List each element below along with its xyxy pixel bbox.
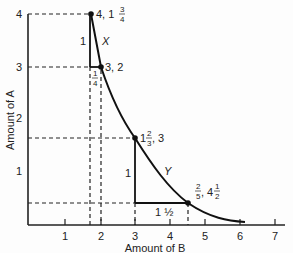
svg-text:4, 1: 4, 1 <box>96 8 114 20</box>
y-tick-2: 2 <box>16 112 22 124</box>
x-tick-3: 3 <box>132 230 138 242</box>
indifference-curve <box>91 14 245 222</box>
y-tick-3: 3 <box>16 61 22 73</box>
point-3-label: 1 2 3 , 3 <box>140 129 164 148</box>
point-1-label: 4, 1 3 4 <box>96 5 125 24</box>
chart: 1 2 3 4 5 6 7 Amount of B 1 2 3 4 Amount… <box>0 0 293 253</box>
delta-b-y-label: 1 ½ <box>155 206 173 218</box>
svg-text:4: 4 <box>93 79 98 88</box>
point-4-label: 2 5 , 4 1 2 <box>195 182 220 201</box>
point-3 <box>132 135 138 141</box>
x-tick-7: 7 <box>272 230 278 242</box>
svg-text:3: 3 <box>120 5 125 14</box>
segment-y-label: Y <box>164 165 172 177</box>
point-1 <box>88 11 94 17</box>
x-tick-labels: 1 2 3 4 5 6 7 <box>62 230 278 242</box>
point-2-label: 3, 2 <box>105 61 123 73</box>
y-tick-4: 4 <box>16 8 22 20</box>
svg-text:1: 1 <box>215 182 220 191</box>
delta-a-y-label: 1 <box>125 167 131 179</box>
svg-text:, 3: , 3 <box>152 132 164 144</box>
x-tick-4: 4 <box>167 230 173 242</box>
x-axis-label: Amount of B <box>125 242 186 253</box>
svg-text:1: 1 <box>140 132 146 144</box>
svg-text:2: 2 <box>215 192 220 201</box>
segment-x-label: X <box>101 35 110 47</box>
svg-text:1: 1 <box>93 69 98 78</box>
y-axis-label: Amount of A <box>4 89 16 150</box>
svg-text:, 4: , 4 <box>201 186 213 198</box>
point-2 <box>98 64 104 70</box>
x-tick-1: 1 <box>62 230 68 242</box>
point-4 <box>185 200 191 206</box>
svg-text:4: 4 <box>120 15 125 24</box>
delta-b-x-label: 1 4 <box>92 69 98 88</box>
x-tick-5: 5 <box>202 230 208 242</box>
x-tick-6: 6 <box>237 230 243 242</box>
x-tick-2: 2 <box>98 230 104 242</box>
delta-a-x-label: 1 <box>80 35 86 47</box>
y-tick-1: 1 <box>16 165 22 177</box>
